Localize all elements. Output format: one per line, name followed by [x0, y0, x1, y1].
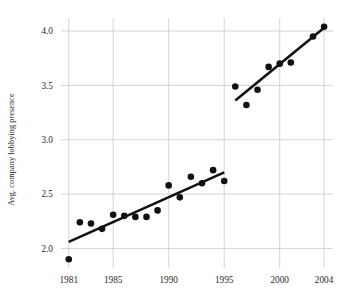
- data-point: [121, 213, 128, 220]
- scatter-plot-canvas: 2.02.53.03.54.0 198119851990199520002004: [0, 0, 352, 299]
- data-point: [77, 219, 84, 226]
- y-tick-label: 2.5: [41, 189, 53, 199]
- data-point: [265, 64, 272, 71]
- x-tick-label: 1985: [104, 275, 123, 285]
- data-point: [154, 207, 161, 214]
- chart-figure: Avg. company lobbying presence 2.02.53.0…: [0, 0, 352, 299]
- data-point: [99, 226, 106, 233]
- y-tick-label: 3.5: [41, 81, 53, 91]
- data-point: [110, 211, 117, 218]
- data-point: [321, 23, 328, 30]
- data-point: [165, 182, 172, 189]
- x-tick-label: 2004: [315, 275, 334, 285]
- data-point: [65, 256, 72, 263]
- x-tick-label: 2000: [270, 275, 289, 285]
- data-point: [199, 180, 206, 187]
- data-point: [176, 194, 183, 201]
- data-point: [143, 214, 150, 221]
- x-tick-labels: 198119851990199520002004: [59, 275, 333, 285]
- data-point: [276, 60, 283, 67]
- data-point: [88, 220, 95, 227]
- data-point: [243, 102, 250, 109]
- data-point: [188, 173, 195, 180]
- data-point: [288, 59, 295, 66]
- y-tick-label: 2.0: [41, 244, 53, 254]
- data-point: [310, 33, 317, 40]
- y-tick-labels: 2.02.53.03.54.0: [41, 26, 53, 253]
- data-point: [232, 83, 239, 90]
- data-point: [221, 178, 228, 185]
- data-point: [254, 86, 261, 93]
- data-point: [132, 214, 139, 221]
- x-tick-label: 1995: [215, 275, 234, 285]
- y-tick-label: 3.0: [41, 135, 53, 145]
- data-point: [210, 167, 217, 174]
- y-tick-label: 4.0: [41, 26, 53, 36]
- trend-lines: [69, 28, 324, 242]
- x-tick-label: 1981: [59, 275, 78, 285]
- x-tick-label: 1990: [159, 275, 178, 285]
